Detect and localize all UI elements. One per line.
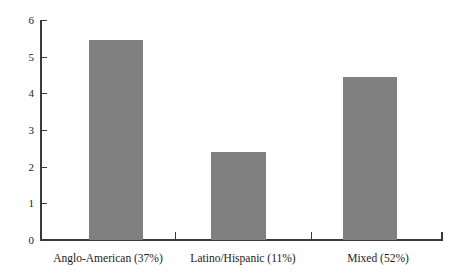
- y-tick-label-4: 4: [0, 88, 34, 99]
- category-label-latino-hispanic: Latino/Hispanic (11%): [172, 252, 314, 265]
- y-tick-label-1: 1: [0, 198, 34, 209]
- x-axis-end-tick: [441, 232, 443, 241]
- bar-mixed: [343, 77, 397, 240]
- y-tick-6: [40, 20, 47, 21]
- y-tick-label-3: 3: [0, 125, 34, 136]
- y-tick-label-5: 5: [0, 52, 34, 63]
- y-tick-4: [40, 93, 47, 94]
- y-tick-2: [40, 167, 47, 168]
- y-tick-3: [40, 130, 47, 131]
- y-tick-5: [40, 57, 47, 58]
- y-tick-1: [40, 203, 47, 204]
- bar-chart: 6 5 4 3 2 1 0 Anglo-American (37%) Latin…: [0, 0, 464, 279]
- bar-latino-hispanic: [211, 152, 266, 240]
- y-tick-label-0: 0: [0, 235, 34, 246]
- bar-anglo-american: [89, 40, 143, 240]
- x-separator-tick-2: [311, 232, 312, 241]
- category-label-anglo-american: Anglo-American (37%): [41, 252, 175, 265]
- x-separator-tick-1: [175, 232, 176, 241]
- y-tick-label-6: 6: [0, 15, 34, 26]
- y-tick-label-2: 2: [0, 162, 34, 173]
- category-label-mixed: Mixed (52%): [313, 252, 443, 265]
